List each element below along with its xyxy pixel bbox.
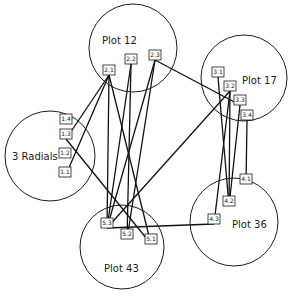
plot-label: Plot 12 (102, 35, 137, 46)
station-node: 4.2 (223, 196, 235, 206)
node-label: 1.4 (61, 115, 71, 122)
plot-p36: Plot 36 (190, 178, 278, 266)
plot-circle (80, 205, 164, 289)
node-label: 2.1 (104, 66, 114, 73)
station-node: 2.3 (149, 50, 161, 60)
node-label: 1.1 (60, 168, 70, 175)
station-node: 1.1 (59, 167, 71, 177)
node-label: 3.3 (235, 96, 245, 103)
diagram-svg: Plot 12Plot 173 RadialsPlot 36Plot 43 2.… (0, 0, 292, 296)
station-node: 3.4 (241, 110, 253, 120)
plot-label: Plot 36 (232, 219, 267, 230)
plot-circle (89, 4, 177, 92)
node-label: 4.1 (241, 175, 251, 182)
connection-line (229, 91, 230, 206)
plot-p12: Plot 12 (89, 4, 177, 92)
station-node: 4.1 (240, 174, 252, 184)
station-node: 2.2 (125, 54, 137, 64)
plot-label: Plot 17 (242, 75, 277, 86)
node-label: 3.1 (213, 68, 223, 75)
connection-line (66, 75, 109, 139)
node-label: 4.2 (224, 197, 234, 204)
station-node: 2.1 (103, 65, 115, 75)
node-label: 5.1 (146, 235, 156, 242)
connection-line (127, 60, 155, 239)
node-label: 2.2 (126, 55, 136, 62)
plot-label: Plot 43 (104, 263, 139, 274)
plot-circles: Plot 12Plot 173 RadialsPlot 36Plot 43 (5, 4, 287, 289)
node-label: 4.3 (209, 215, 219, 222)
node-label: 1.2 (60, 149, 70, 156)
node-label: 5.3 (102, 219, 112, 226)
connection-line (107, 75, 109, 228)
node-label: 5.2 (122, 230, 132, 237)
station-node: 4.3 (208, 214, 220, 224)
connection-line (107, 224, 214, 228)
plot-label: 3 Radials (12, 151, 58, 162)
plot-radials: 3 Radials (5, 111, 95, 201)
station-node: 3.3 (234, 95, 246, 105)
station-node: 5.2 (121, 229, 133, 239)
station-node: 5.1 (145, 234, 157, 244)
node-label: 3.2 (225, 82, 235, 89)
sampling-network-diagram: Plot 12Plot 173 RadialsPlot 36Plot 43 2.… (0, 0, 292, 296)
station-node: 5.3 (101, 218, 113, 228)
station-node: 3.2 (224, 81, 236, 91)
node-label: 1.3 (61, 130, 71, 137)
node-label: 2.3 (150, 51, 160, 58)
station-node: 1.4 (60, 114, 72, 124)
plot-p43: Plot 43 (80, 205, 164, 289)
plot-p17: Plot 17 (201, 35, 287, 121)
station-node: 1.2 (59, 148, 71, 158)
connection-line (65, 75, 109, 177)
node-label: 3.4 (242, 111, 252, 118)
station-node: 1.3 (60, 129, 72, 139)
connection-line (107, 91, 230, 228)
station-node: 3.1 (212, 67, 224, 77)
